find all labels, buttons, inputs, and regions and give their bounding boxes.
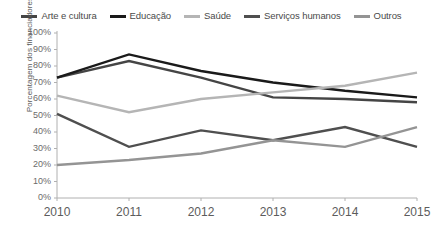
x-axis-tick-label: 2010	[30, 206, 84, 219]
x-axis-tick-label: 2013	[246, 206, 300, 219]
x-axis-tick-label: 2015	[390, 206, 435, 219]
x-axis-tick-label: 2011	[102, 206, 156, 219]
x-axis-tick-label: 2014	[318, 206, 372, 219]
x-axis-tick-label: 2012	[174, 206, 228, 219]
